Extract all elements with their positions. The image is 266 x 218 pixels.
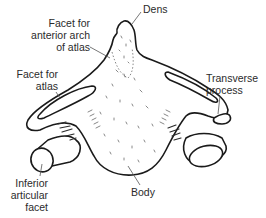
label-transverse-process: Transverse process [206, 72, 258, 96]
leader-dens [132, 12, 141, 24]
leader-facet-anterior-arch [90, 47, 110, 58]
label-inferior-articular-facet: Inferior articular facet [4, 177, 48, 213]
label-facet-anterior-arch: Facet for anterior arch of atlas [28, 17, 90, 53]
label-facet-atlas: Facet for atlas [14, 68, 58, 92]
label-dens: Dens [143, 3, 168, 15]
label-body: Body [131, 186, 155, 198]
